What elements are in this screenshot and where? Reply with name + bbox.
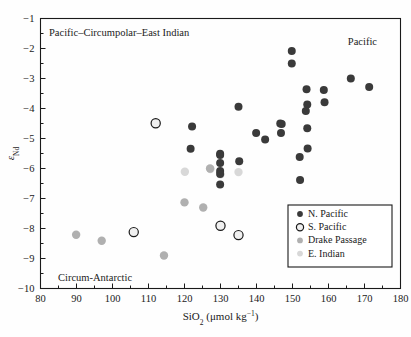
legend-label-e-indian[interactable]: E. Indian [308,248,345,259]
data-point-n-pacific[interactable] [288,47,296,55]
data-point-n-pacific[interactable] [235,157,243,165]
legend-marker-n-pacific [297,211,303,217]
y-tick-label: −9 [23,253,34,264]
y-axis-title: εNd [4,146,21,160]
data-point-drake-passage[interactable] [180,198,188,206]
x-tick-label: 120 [177,293,193,304]
data-point-n-pacific[interactable] [261,135,269,143]
x-tick-label: 130 [213,293,229,304]
annotation-bottom-left: Circum-Antarctic [58,272,132,283]
y-tick-label: −6 [23,163,34,174]
annotation-top-left: Pacific–Circumpolar–East Indian [49,27,190,38]
x-tick-label: 160 [321,293,337,304]
legend-label-s-pacific[interactable]: S. Pacific [308,221,347,232]
scatter-plot: 8090100110120130140150160170180−1−2−3−4−… [0,0,411,337]
data-point-drake-passage[interactable] [199,203,207,211]
data-point-n-pacific[interactable] [187,145,195,153]
data-point-n-pacific[interactable] [303,85,311,93]
legend-label-drake-passage[interactable]: Drake Passage [308,234,367,245]
data-point-n-pacific[interactable] [252,129,260,137]
y-tick-label: −1 [23,13,34,24]
y-tick-label: −5 [23,133,34,144]
data-point-n-pacific[interactable] [304,144,312,152]
data-point-n-pacific[interactable] [216,170,224,178]
data-point-s-pacific[interactable] [151,119,160,128]
y-tick-label: −4 [23,103,35,114]
x-tick-label: 150 [285,293,301,304]
data-point-n-pacific[interactable] [365,83,373,91]
data-point-drake-passage[interactable] [72,231,80,239]
y-tick-label: −2 [23,43,34,54]
data-point-n-pacific[interactable] [216,180,224,188]
data-point-e-indian[interactable] [234,168,242,176]
x-axis-title: SiO2 (μmol kg−1) [183,308,259,326]
y-tick-label: −7 [23,193,34,204]
y-tick-label: −8 [23,223,34,234]
data-point-n-pacific[interactable] [303,124,311,132]
y-tick-label: −3 [23,73,34,84]
data-point-e-indian[interactable] [181,168,189,176]
legend-marker-s-pacific [296,224,303,231]
x-tick-label: 100 [105,293,121,304]
data-point-n-pacific[interactable] [320,86,328,94]
x-tick-label: 90 [71,293,82,304]
data-point-n-pacific[interactable] [302,107,310,115]
data-point-n-pacific[interactable] [188,123,196,131]
data-point-n-pacific[interactable] [321,98,329,106]
chart-figure: 8090100110120130140150160170180−1−2−3−4−… [0,0,411,337]
data-point-s-pacific[interactable] [216,221,225,230]
data-point-drake-passage[interactable] [98,237,106,245]
annotation-top-right: Pacific [348,36,377,47]
data-point-drake-passage[interactable] [160,251,168,259]
data-point-n-pacific[interactable] [288,60,296,68]
x-tick-label: 80 [35,293,46,304]
data-point-n-pacific[interactable] [296,153,304,161]
data-point-s-pacific[interactable] [129,228,138,237]
legend-label-n-pacific[interactable]: N. Pacific [308,208,349,219]
x-tick-label: 170 [357,293,373,304]
data-point-n-pacific[interactable] [235,103,243,111]
data-point-n-pacific[interactable] [296,176,304,184]
data-point-s-pacific[interactable] [234,231,243,240]
data-point-n-pacific[interactable] [277,129,285,137]
data-point-n-pacific[interactable] [278,120,286,128]
x-tick-label: 180 [393,293,409,304]
y-tick-label: −10 [18,283,34,294]
legend-marker-drake-passage [297,238,303,244]
legend-marker-e-indian [297,251,303,257]
data-point-drake-passage[interactable] [206,164,214,172]
x-tick-label: 140 [249,293,265,304]
x-tick-label: 110 [141,293,156,304]
data-point-n-pacific[interactable] [216,151,224,159]
data-point-n-pacific[interactable] [216,159,224,167]
data-point-n-pacific[interactable] [347,75,355,83]
